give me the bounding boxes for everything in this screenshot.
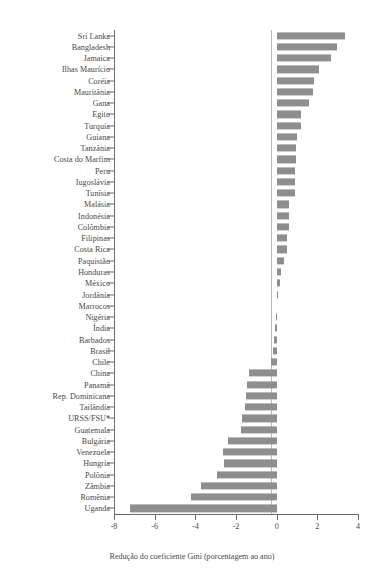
category-tick-mark xyxy=(107,418,114,419)
category-tick-mark xyxy=(107,283,114,284)
category-tick-mark xyxy=(107,452,114,453)
x-tick xyxy=(358,514,359,520)
x-tick-label: -2 xyxy=(233,522,240,531)
category-label: Indonésia xyxy=(78,211,110,220)
bar xyxy=(249,370,276,377)
category-tick-mark xyxy=(107,497,114,498)
bar xyxy=(228,437,277,444)
category-label: Colômbia xyxy=(78,222,110,231)
category-label: Sri Lanka xyxy=(78,31,110,40)
category-tick-mark xyxy=(107,373,114,374)
category-tick-mark xyxy=(107,463,114,464)
category-tick-mark xyxy=(107,485,114,486)
bar xyxy=(276,313,277,320)
x-tick-label: 4 xyxy=(356,522,360,531)
category-tick-mark xyxy=(107,350,114,351)
bar xyxy=(277,268,281,275)
table-row: Guiana xyxy=(0,131,384,142)
category-tick-mark xyxy=(107,249,114,250)
category-label: Tanzânia xyxy=(81,144,111,153)
category-tick-mark xyxy=(107,35,114,36)
category-label: Filipinas xyxy=(81,234,110,243)
category-tick-mark xyxy=(107,294,114,295)
category-label: Costa Rica xyxy=(74,245,110,254)
x-tick xyxy=(236,514,237,520)
category-tick-mark xyxy=(107,328,114,329)
category-tick-mark xyxy=(107,305,114,306)
bar xyxy=(277,280,280,287)
bar xyxy=(277,43,337,50)
table-row: Sri Lanka xyxy=(0,30,384,41)
bar xyxy=(277,223,290,230)
table-row: Peru xyxy=(0,165,384,176)
category-tick-mark xyxy=(107,136,114,137)
category-tick-mark xyxy=(107,474,114,475)
category-tick-mark xyxy=(107,159,114,160)
table-row: URSS/FSU* xyxy=(0,413,384,424)
bar xyxy=(277,88,314,95)
category-tick-mark xyxy=(107,46,114,47)
bar xyxy=(277,201,290,208)
bar xyxy=(277,133,297,140)
bar xyxy=(277,77,315,84)
category-label: Rep. Dominicana xyxy=(53,391,110,400)
bar xyxy=(224,460,277,467)
category-tick-mark xyxy=(107,362,114,363)
category-tick-mark xyxy=(107,114,114,115)
table-row: Polônia xyxy=(0,469,384,480)
category-label: Jordânia xyxy=(82,290,110,299)
category-tick-mark xyxy=(107,125,114,126)
category-label: Honduras xyxy=(78,267,110,276)
category-tick-mark xyxy=(107,238,114,239)
bar xyxy=(277,257,284,264)
bar xyxy=(274,336,277,343)
bar xyxy=(277,246,287,253)
category-label: Tailândia xyxy=(80,403,110,412)
table-row: Costa Rica xyxy=(0,244,384,255)
table-row: Venezuela xyxy=(0,446,384,457)
category-tick-mark xyxy=(107,260,114,261)
x-tick xyxy=(195,514,196,520)
category-tick-mark xyxy=(107,429,114,430)
category-label: Mauritânia xyxy=(74,87,110,96)
category-label: Guatemala xyxy=(74,425,110,434)
x-tick xyxy=(277,514,278,520)
bar xyxy=(277,212,289,219)
category-tick-mark xyxy=(107,395,114,396)
table-row: Costa do Marfim xyxy=(0,154,384,165)
category-label: Marrocos xyxy=(79,301,110,310)
table-row: Uganda xyxy=(0,503,384,514)
category-tick-mark xyxy=(107,91,114,92)
table-row: Marrocos xyxy=(0,300,384,311)
category-tick-mark xyxy=(107,440,114,441)
bar xyxy=(247,381,276,388)
category-label: Ilhas Maurício xyxy=(62,65,110,74)
x-axis-title: Redução do coeficiente Gini (porcentagem… xyxy=(0,552,384,561)
table-row: Guatemala xyxy=(0,424,384,435)
category-tick-mark xyxy=(107,384,114,385)
table-row: Turquia xyxy=(0,120,384,131)
category-label: Romênia xyxy=(80,493,110,502)
table-row: Romênia xyxy=(0,491,384,502)
category-tick-mark xyxy=(107,317,114,318)
table-row: Rep. Dominicana xyxy=(0,390,384,401)
category-tick-mark xyxy=(107,508,114,509)
bar xyxy=(271,358,277,365)
category-tick-mark xyxy=(107,80,114,81)
category-tick-mark xyxy=(107,170,114,171)
table-row: Paquistão xyxy=(0,255,384,266)
table-row: Zâmbia xyxy=(0,480,384,491)
plot-area: Sri LankaBangladeshJamaicaIlhas Maurício… xyxy=(0,0,384,587)
category-tick-mark xyxy=(107,407,114,408)
table-row: Jamaica xyxy=(0,53,384,64)
category-tick-mark xyxy=(107,204,114,205)
x-tick xyxy=(114,514,115,520)
bar xyxy=(277,291,278,298)
bar xyxy=(130,505,276,512)
bar xyxy=(277,66,320,73)
table-row: Egito xyxy=(0,109,384,120)
table-row: Honduras xyxy=(0,266,384,277)
table-row: Panamá xyxy=(0,379,384,390)
table-row: Iugoslávia xyxy=(0,176,384,187)
bar xyxy=(275,325,277,332)
